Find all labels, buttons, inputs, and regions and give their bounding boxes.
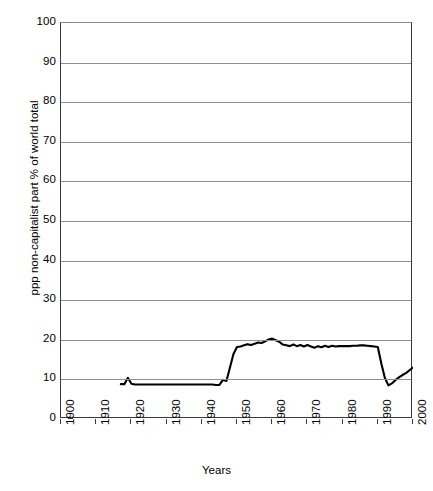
x-tick-label: 1940: [206, 399, 218, 425]
x-tick-mark: [95, 419, 96, 424]
x-tick-mark: [130, 419, 131, 424]
x-tick-mark: [342, 419, 343, 424]
x-tick-mark: [306, 419, 307, 424]
gridline-y-60: [61, 181, 411, 182]
x-tick-label: 1960: [276, 399, 288, 425]
x-tick-label: 1950: [241, 399, 253, 425]
gridline-y-30: [61, 300, 411, 301]
x-tick-label: 2000: [417, 399, 429, 425]
x-tick-mark: [271, 419, 272, 424]
x-tick-mark: [412, 419, 413, 424]
x-tick-mark: [166, 419, 167, 424]
chart-figure: 0102030405060708090100 ppp non-capitalis…: [0, 0, 433, 491]
x-tick-label: 1970: [311, 399, 323, 425]
y-tick-label: 20: [24, 333, 56, 345]
plot-area: [60, 22, 412, 418]
clipped-caption: [0, 481, 433, 491]
x-tick-label: 1910: [100, 399, 112, 425]
gridline-y-70: [61, 142, 411, 143]
x-tick-mark: [236, 419, 237, 424]
y-axis-title: ppp non-capitalist part % of world total: [28, 78, 40, 318]
gridline-y-80: [61, 102, 411, 103]
x-tick-label: 1980: [347, 399, 359, 425]
y-tick-label: 90: [24, 56, 56, 68]
y-tick-label: 0: [24, 412, 56, 424]
y-tick-label: 100: [24, 16, 56, 28]
x-tick-label: 1930: [171, 399, 183, 425]
y-tick-label: 10: [24, 372, 56, 384]
x-axis-title: Years: [0, 464, 433, 476]
x-tick-mark: [201, 419, 202, 424]
gridline-y-40: [61, 261, 411, 262]
x-tick-label: 1920: [135, 399, 147, 425]
x-tick-mark: [377, 419, 378, 424]
gridline-y-20: [61, 340, 411, 341]
x-tick-label: 1990: [382, 399, 394, 425]
x-tick-mark: [60, 419, 61, 424]
x-tick-label: 1900: [65, 399, 77, 425]
gridline-y-90: [61, 63, 411, 64]
gridline-y-10: [61, 379, 411, 380]
gridline-y-50: [61, 221, 411, 222]
